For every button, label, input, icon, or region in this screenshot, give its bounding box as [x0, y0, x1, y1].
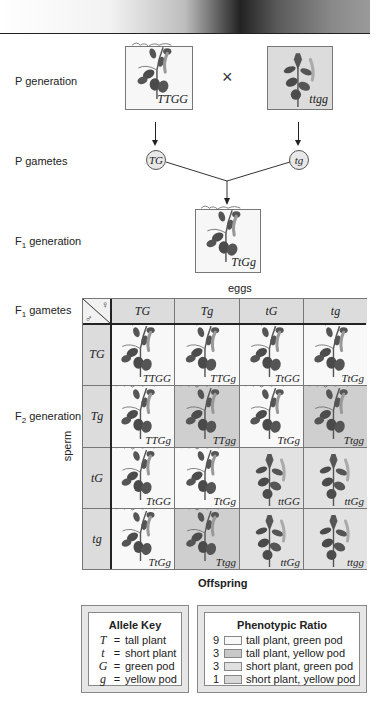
tall-plant-icon	[111, 448, 174, 502]
genotype-label: ttgg	[347, 556, 364, 568]
offspring-cell: TtGG	[240, 324, 304, 386]
eggs-label: eggs	[228, 282, 252, 294]
allele-key-row: G=green pod	[97, 660, 181, 673]
allele-meaning: tall plant	[125, 634, 166, 646]
allele-key-title: Allele Key	[89, 619, 181, 631]
genotype-label: TtGg	[341, 372, 364, 384]
allele-meaning: green pod	[125, 660, 175, 672]
tall-plant-icon	[304, 324, 367, 379]
ratio-count: 1	[213, 673, 222, 686]
genotype-label: TTgg	[213, 434, 236, 446]
allele-symbol: g	[97, 673, 109, 686]
phenotypic-ratio-title: Phenotypic Ratio	[205, 619, 359, 631]
offspring-cell: TtGg	[175, 448, 240, 509]
genotype-label: TtGg	[148, 556, 171, 568]
header-divider	[83, 323, 366, 325]
offspring-cell: TtGG	[111, 448, 175, 509]
color-swatch-icon	[224, 675, 242, 684]
genotype-label: ttGg	[344, 495, 364, 507]
tall-plant-icon	[111, 324, 174, 379]
tall-plant-icon	[240, 386, 303, 441]
tall-plant-icon	[304, 386, 367, 441]
equals-sign: =	[109, 647, 125, 660]
punnett-square: ♀ ♂ TG Tg tG tg TG Tg tG tg TTGGTTGgTtGG…	[82, 298, 367, 570]
offspring-cell: TTGG	[111, 324, 175, 386]
allele-key-row: t=short plant	[97, 647, 181, 660]
offspring-cell: TTgg	[175, 386, 240, 448]
header-divider	[110, 299, 112, 569]
genotype-label: TtGg	[231, 255, 256, 270]
tall-plant-icon	[240, 324, 303, 379]
allele-key-row: T=tall plant	[97, 634, 181, 647]
tall-plant-icon	[175, 324, 239, 379]
genotype-label: TTGG	[143, 372, 171, 384]
ratio-row: 3short plant, green pod	[213, 660, 359, 673]
tall-plant-icon	[175, 509, 239, 563]
egg-gamete-header: TG	[111, 299, 175, 324]
genotype-label: TtGg	[277, 434, 300, 446]
genotype-label: ttGg	[280, 556, 300, 568]
genotype-label: TtGg	[213, 495, 236, 507]
genotype-label: ttGG	[278, 495, 300, 507]
equals-sign: =	[109, 634, 125, 647]
genotype-label: Ttgg	[344, 434, 364, 446]
ratio-row: 1short plant, yellow pod	[213, 673, 359, 686]
egg-gamete-header: Tg	[175, 299, 240, 324]
ratio-label: short plant, green pod	[246, 660, 353, 673]
genotype-label: TtGG	[146, 495, 171, 507]
ratio-label: tall plant, yellow pod	[246, 647, 345, 660]
sperm-gamete-header: tg	[83, 509, 111, 569]
ratio-count: 3	[213, 660, 222, 673]
offspring-cell: TtGg	[304, 324, 367, 386]
allele-meaning: short plant	[125, 647, 176, 659]
offspring-cell: ttGg	[240, 509, 304, 569]
label-f1-generation: F1 generation	[15, 235, 81, 250]
genotype-label: Ttgg	[216, 556, 236, 568]
tall-plant-icon	[111, 386, 174, 441]
sperm-label: sperm	[61, 431, 73, 462]
gamete-fusion-lines	[0, 0, 376, 220]
label-f1-gametes: F1 gametes	[15, 304, 71, 319]
allele-key-row: g=yellow pod	[97, 673, 181, 686]
allele-key-box: Allele Key T=tall plantt=short plantG=gr…	[81, 605, 189, 693]
ratio-label: tall plant, green pod	[246, 634, 343, 647]
sperm-gamete-header: TG	[83, 324, 111, 386]
ratio-row: 3tall plant, yellow pod	[213, 647, 359, 660]
label-f2-generation: F2 generation	[15, 410, 81, 425]
ratio-count: 9	[213, 634, 222, 647]
offspring-cell: ttGG	[240, 448, 304, 509]
ratio-label: short plant, yellow pod	[246, 673, 355, 686]
equals-sign: =	[109, 660, 125, 673]
ratio-row: 9tall plant, green pod	[213, 634, 359, 647]
offspring-cell: Ttgg	[304, 386, 367, 448]
sperm-gamete-header: tG	[83, 448, 111, 509]
equals-sign: =	[109, 673, 125, 686]
offspring-cell: TtGg	[111, 509, 175, 569]
female-icon: ♀	[102, 299, 110, 310]
color-swatch-icon	[224, 636, 242, 645]
offspring-cell: TTGg	[111, 386, 175, 448]
offspring-cell: TTGg	[175, 324, 240, 386]
tall-plant-icon	[175, 448, 239, 502]
offspring-cell: ttGg	[304, 448, 367, 509]
tall-plant-icon	[111, 509, 174, 563]
offspring-cell: ttgg	[304, 509, 367, 569]
genotype-label: TTGg	[145, 434, 171, 446]
egg-gamete-header: tG	[240, 299, 304, 324]
sex-symbol-corner: ♀ ♂	[83, 299, 111, 324]
f1-plant: TtGg	[195, 209, 261, 273]
offspring-cell: Ttgg	[175, 509, 240, 569]
genotype-label: TtGG	[275, 372, 300, 384]
color-swatch-icon	[224, 649, 242, 658]
color-swatch-icon	[224, 662, 242, 671]
tall-plant-icon	[175, 386, 239, 441]
genotype-label: TTGg	[210, 372, 236, 384]
sperm-gamete-header: Tg	[83, 386, 111, 448]
offspring-label: Offspring	[198, 577, 248, 589]
phenotypic-ratio-box: Phenotypic Ratio 9tall plant, green pod3…	[197, 605, 367, 693]
ratio-count: 3	[213, 647, 222, 660]
allele-meaning: yellow pod	[125, 673, 177, 685]
egg-gamete-header: tg	[304, 299, 367, 324]
offspring-cell: TtGg	[240, 386, 304, 448]
